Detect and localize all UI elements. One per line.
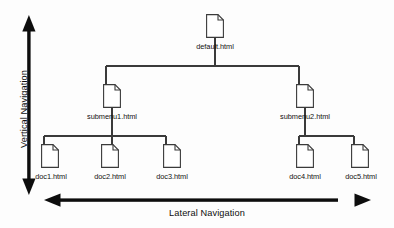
document-page-icon-submenu2[interactable] [297, 85, 314, 108]
node-label-doc4: doc4.html [289, 172, 321, 181]
vertical-navigation-label: Vertical Navigation [19, 70, 29, 148]
document-page-icon-submenu1[interactable] [104, 85, 121, 108]
lateral-navigation-label: Lateral Navigation [169, 208, 245, 218]
document-page-icon-doc3[interactable] [164, 145, 181, 168]
document-page-icon-doc2[interactable] [102, 145, 119, 168]
node-label-submenu2: submenu2.html [280, 112, 330, 121]
document-icons [42, 15, 369, 168]
document-page-icon-doc4[interactable] [297, 145, 314, 168]
node-label-doc3: doc3.html [156, 172, 188, 181]
document-page-icon-doc1[interactable] [42, 145, 59, 168]
node-label-default: default.html [196, 42, 234, 51]
node-label-doc1: doc1.html [35, 172, 67, 181]
node-label-doc2: doc2.html [94, 172, 126, 181]
document-page-icon-doc5[interactable] [352, 145, 369, 168]
node-label-doc5: doc5.html [345, 172, 377, 181]
diagram-canvas: default.html submenu1.html submenu2.html… [0, 0, 394, 228]
document-page-icon-default[interactable] [207, 15, 224, 38]
lateral-double-arrow [44, 194, 371, 207]
node-label-submenu1: submenu1.html [87, 112, 137, 121]
sitemap-diagram [0, 0, 394, 228]
